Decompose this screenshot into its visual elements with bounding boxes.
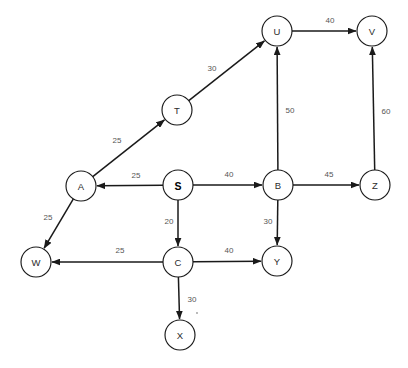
node-label-s: S (174, 180, 181, 192)
edge-weight-t-u: 30 (208, 64, 217, 73)
node-a[interactable]: A (66, 171, 96, 201)
node-label-v: V (369, 26, 376, 37)
node-z[interactable]: Z (360, 170, 390, 200)
node-y[interactable]: Y (262, 246, 292, 276)
edge-b-to-y (277, 200, 278, 245)
edge-a-to-t (93, 120, 165, 177)
edge-labels-layer: 3040506025254020453025254030 (44, 16, 391, 304)
node-label-u: U (274, 26, 281, 37)
edge-weight-c-w: 25 (116, 246, 125, 255)
node-t[interactable]: T (162, 95, 192, 125)
edge-weight-a-w: 25 (44, 213, 53, 222)
edge-b-to-u (277, 47, 278, 170)
node-label-t: T (174, 105, 180, 116)
edge-weight-b-y: 30 (264, 217, 273, 226)
edge-weight-c-x: 30 (188, 295, 197, 304)
node-b[interactable]: B (263, 170, 293, 200)
node-label-x: X (177, 330, 184, 341)
edge-c-to-y (193, 261, 261, 262)
edge-weight-b-z: 45 (325, 170, 334, 179)
graph-diagram-canvas: 3040506025254020453025254030 UVTASBZWCYX (0, 0, 408, 368)
node-label-b: B (275, 180, 281, 191)
edge-a-to-w (44, 199, 73, 248)
node-label-a: A (78, 181, 85, 192)
graph-svg: 3040506025254020453025254030 UVTASBZWCYX (0, 0, 408, 368)
edge-weight-s-b: 40 (225, 170, 234, 179)
edge-c-to-x (178, 277, 179, 319)
node-label-c: C (175, 257, 182, 268)
node-v[interactable]: V (357, 16, 387, 46)
edge-weight-c-y: 40 (225, 246, 234, 255)
edge-weight-z-v: 60 (382, 107, 391, 116)
node-label-y: Y (274, 256, 281, 267)
edge-weight-s-a: 25 (132, 171, 141, 180)
edge-weight-b-u: 50 (286, 106, 295, 115)
node-c[interactable]: C (163, 247, 193, 277)
nodes-layer: UVTASBZWCYX (21, 16, 390, 350)
node-s[interactable]: S (163, 170, 193, 200)
edge-t-to-u (189, 41, 265, 101)
edge-weight-s-c: 20 (165, 217, 174, 226)
node-u[interactable]: U (262, 16, 292, 46)
speck-artifact (196, 312, 198, 314)
node-w[interactable]: W (21, 247, 51, 277)
edge-weight-a-t: 25 (113, 136, 122, 145)
edge-z-to-v (372, 47, 374, 170)
node-x[interactable]: X (165, 320, 195, 350)
node-label-w: W (32, 257, 41, 268)
edge-weight-u-v: 40 (326, 16, 335, 25)
edge-s-to-a (97, 185, 163, 186)
node-label-z: Z (372, 180, 378, 191)
